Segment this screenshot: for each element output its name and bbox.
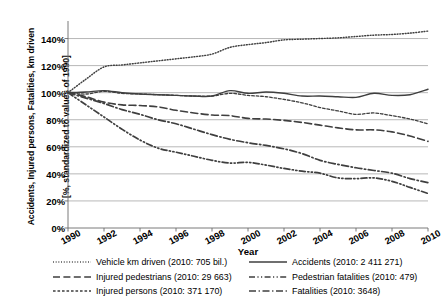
x-axis-tick: 1994 — [131, 227, 155, 247]
x-axis-tick: 2000 — [239, 227, 263, 247]
legend-column-right: Accidents (2010: 2 411 271)Pedestrian fa… — [248, 255, 447, 299]
x-axis-tick: 2006 — [347, 227, 371, 247]
legend-column-left: Vehicle km driven (2010: 705 bil.)Injure… — [52, 255, 262, 299]
series-line — [68, 93, 428, 142]
x-axis-tick: 1996 — [167, 227, 191, 247]
x-axis-tick: 1992 — [95, 227, 119, 247]
x-axis-tick: 2004 — [311, 227, 335, 247]
chart-legend: Vehicle km driven (2010: 705 bil.)Injure… — [52, 255, 442, 299]
legend-item[interactable]: Fatalities (2010: 3648) — [248, 284, 447, 299]
legend-line-swatch — [248, 286, 288, 296]
legend-label: Injured persons (2010: 371 170) — [96, 286, 222, 296]
legend-label: Pedestrian fatalities (2010: 479) — [292, 272, 417, 282]
chart-figure: Accidents, Injured persons, Fatalities, … — [0, 0, 447, 302]
legend-item[interactable]: Injured persons (2010: 371 170) — [52, 284, 262, 299]
legend-item[interactable]: Pedestrian fatalities (2010: 479) — [248, 270, 447, 285]
x-axis-tick: 1998 — [203, 227, 227, 247]
legend-item[interactable]: Accidents (2010: 2 411 271) — [248, 255, 447, 270]
legend-item[interactable]: Injured pedestrians (2010: 29 663) — [52, 270, 262, 285]
legend-line-swatch — [52, 286, 92, 296]
legend-label: Vehicle km driven (2010: 705 bil.) — [96, 257, 227, 267]
legend-line-swatch — [248, 272, 288, 282]
x-axis-tick: 2008 — [383, 227, 407, 247]
legend-line-swatch — [248, 257, 288, 267]
series-line — [68, 31, 428, 93]
legend-label: Accidents (2010: 2 411 271) — [292, 257, 402, 267]
legend-line-swatch — [52, 257, 92, 267]
legend-item[interactable]: Vehicle km driven (2010: 705 bil.) — [52, 255, 262, 270]
legend-label: Injured pedestrians (2010: 29 663) — [96, 272, 232, 282]
series-line — [68, 93, 428, 183]
legend-label: Fatalities (2010: 3648) — [292, 286, 380, 296]
legend-line-swatch — [52, 272, 92, 282]
x-axis-tick: 2002 — [275, 227, 299, 247]
